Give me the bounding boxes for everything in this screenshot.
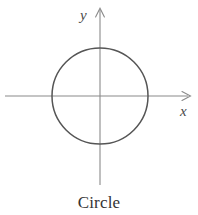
coordinate-plane-diagram: y x: [0, 0, 198, 215]
conic-section-figure: y x Circle: [0, 0, 198, 215]
figure-caption: Circle: [0, 194, 198, 211]
y-axis-label: y: [78, 7, 87, 23]
x-axis-label: x: [179, 103, 187, 119]
